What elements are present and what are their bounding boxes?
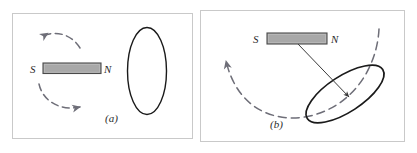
bar-magnet-a [43,63,101,74]
magnet-south-label-b: S [253,33,259,45]
panel-b-caption: (b) [270,118,283,131]
conducting-loop-a [128,28,167,115]
panel-a-drawing: S N (a) [13,14,194,140]
bar-magnet-b [267,33,327,44]
panel-b-drawing: S N (b) [201,11,406,143]
panel-a-caption: (a) [105,112,118,125]
magnet-north-label-b: N [330,33,339,45]
magnet-south-label-a: S [30,63,36,75]
rotation-arrow-top [42,33,80,48]
panel-a: S N (a) [12,13,193,139]
panel-b: S N (b) [200,10,405,142]
magnet-body [267,33,327,44]
magnet-north-label-a: N [103,63,112,75]
conducting-loop-b [297,54,392,133]
rotation-arrow-bottom [39,84,80,108]
field-direction-arrow [298,44,349,97]
physics-figure: S N (a) [0,0,417,153]
